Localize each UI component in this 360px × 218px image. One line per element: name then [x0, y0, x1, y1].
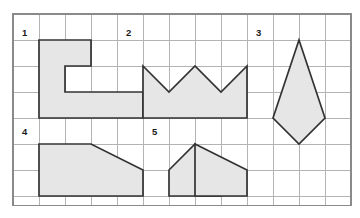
- shape-label-1: 1: [22, 27, 28, 38]
- shape-label-2: 2: [126, 27, 131, 38]
- worksheet-canvas: 12345: [0, 0, 360, 218]
- shapes-figure: 12345: [0, 0, 360, 218]
- trapezoid-polygon: [39, 144, 143, 196]
- crown-polygon: [143, 66, 247, 118]
- shape-label-4: 4: [22, 126, 28, 137]
- kite-polygon: [273, 40, 325, 144]
- shapes-group: [39, 40, 325, 196]
- shape-label-3: 3: [256, 27, 261, 38]
- shape-label-5: 5: [152, 126, 158, 137]
